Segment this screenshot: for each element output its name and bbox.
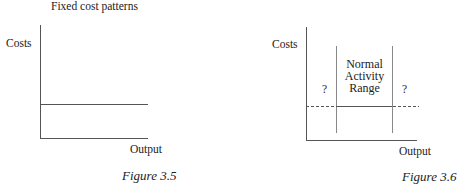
diagram-canvas	[0, 0, 458, 192]
fig36-left-unknown: ?	[322, 83, 327, 95]
fig36-caption: Figure 3.6	[402, 169, 456, 185]
range-label-line-3: Range	[338, 82, 391, 94]
fig36-y-label: Costs	[272, 38, 298, 50]
fig35-title: Fixed cost patterns	[51, 0, 138, 12]
fig36-x-label: Output	[399, 145, 431, 157]
fig36-right-unknown: ?	[402, 83, 407, 95]
fig35-x-label: Output	[130, 143, 162, 155]
fig35-caption: Figure 3.5	[122, 168, 176, 184]
fig35-y-label: Costs	[6, 37, 32, 49]
fig36-normal-activity-range-label: Normal Activity Range	[338, 58, 391, 94]
